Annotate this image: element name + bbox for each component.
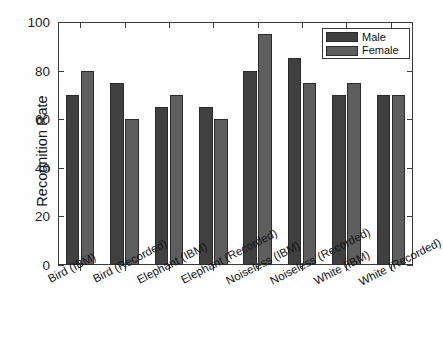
legend-item-female: Female: [326, 45, 406, 58]
legend-label-male: Male: [362, 32, 386, 43]
x-axis-label-1: Bird (Recorded): [91, 238, 169, 286]
legend-swatch-male-icon: [326, 32, 358, 42]
legend-swatch-female-icon: [326, 46, 358, 56]
x-axis-label-0: Bird (IBM): [46, 251, 98, 285]
x-axis-label-7: White (Recorded): [357, 236, 443, 288]
legend-label-female: Female: [362, 45, 399, 56]
legend-item-male: Male: [326, 31, 406, 44]
legend[interactable]: Male Female: [322, 28, 410, 59]
